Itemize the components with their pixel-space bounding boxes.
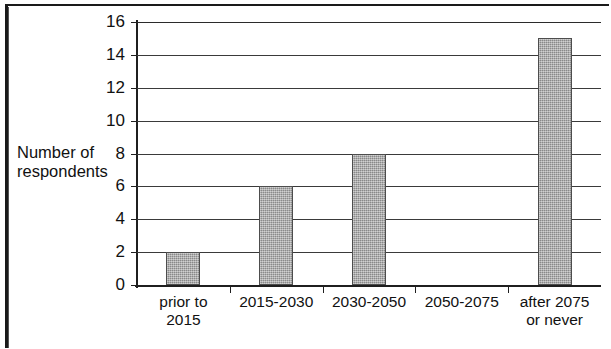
y-tick-label: 14: [65, 46, 125, 63]
y-tick-mark: [131, 285, 137, 286]
y-tick-label: 16: [65, 13, 125, 30]
x-tick-label: prior to2015: [137, 293, 230, 329]
x-tick-label-line: after 2075: [508, 293, 601, 311]
x-tick-mark: [230, 286, 231, 293]
x-tick-label-line: or never: [508, 311, 601, 329]
x-tick-label: 2050-2075: [415, 293, 508, 311]
y-tick-label: 2: [65, 243, 125, 260]
x-tick-label: 2015-2030: [230, 293, 323, 311]
y-tick-mark: [131, 22, 137, 23]
gridline: [137, 55, 601, 56]
x-tick-label: after 2075or never: [508, 293, 601, 329]
x-tick-mark: [508, 286, 509, 293]
y-tick-mark: [131, 121, 137, 122]
y-tick-label: 4: [65, 210, 125, 227]
y-tick-mark: [131, 88, 137, 89]
y-tick-mark: [131, 55, 137, 56]
y-tick-mark: [131, 219, 137, 220]
y-tick-mark: [131, 252, 137, 253]
x-tick-label-line: 2015: [137, 311, 230, 329]
x-tick-mark: [415, 286, 416, 293]
plot-area: [137, 22, 601, 285]
chart-page: Number of respondents 0246810121416 prio…: [0, 0, 611, 349]
gridline: [137, 121, 601, 122]
bar: [259, 186, 293, 285]
gridline: [137, 22, 601, 23]
gridline: [137, 88, 601, 89]
y-tick-label: 6: [65, 177, 125, 194]
y-tick-label: 12: [65, 79, 125, 96]
y-tick-mark: [131, 154, 137, 155]
y-tick-label: 8: [65, 145, 125, 162]
bar: [166, 252, 200, 285]
x-tick-label-line: prior to: [137, 293, 230, 311]
bar: [352, 154, 386, 286]
y-tick-label: 0: [65, 276, 125, 293]
x-tick-label-line: 2015-2030: [230, 293, 323, 311]
x-tick-label: 2030-2050: [323, 293, 416, 311]
x-axis-line: [135, 285, 601, 287]
x-tick-mark: [323, 286, 324, 293]
x-tick-label-line: 2030-2050: [323, 293, 416, 311]
bar: [538, 38, 572, 285]
y-tick-label: 10: [65, 112, 125, 129]
y-tick-mark: [131, 186, 137, 187]
x-tick-label-line: 2050-2075: [415, 293, 508, 311]
